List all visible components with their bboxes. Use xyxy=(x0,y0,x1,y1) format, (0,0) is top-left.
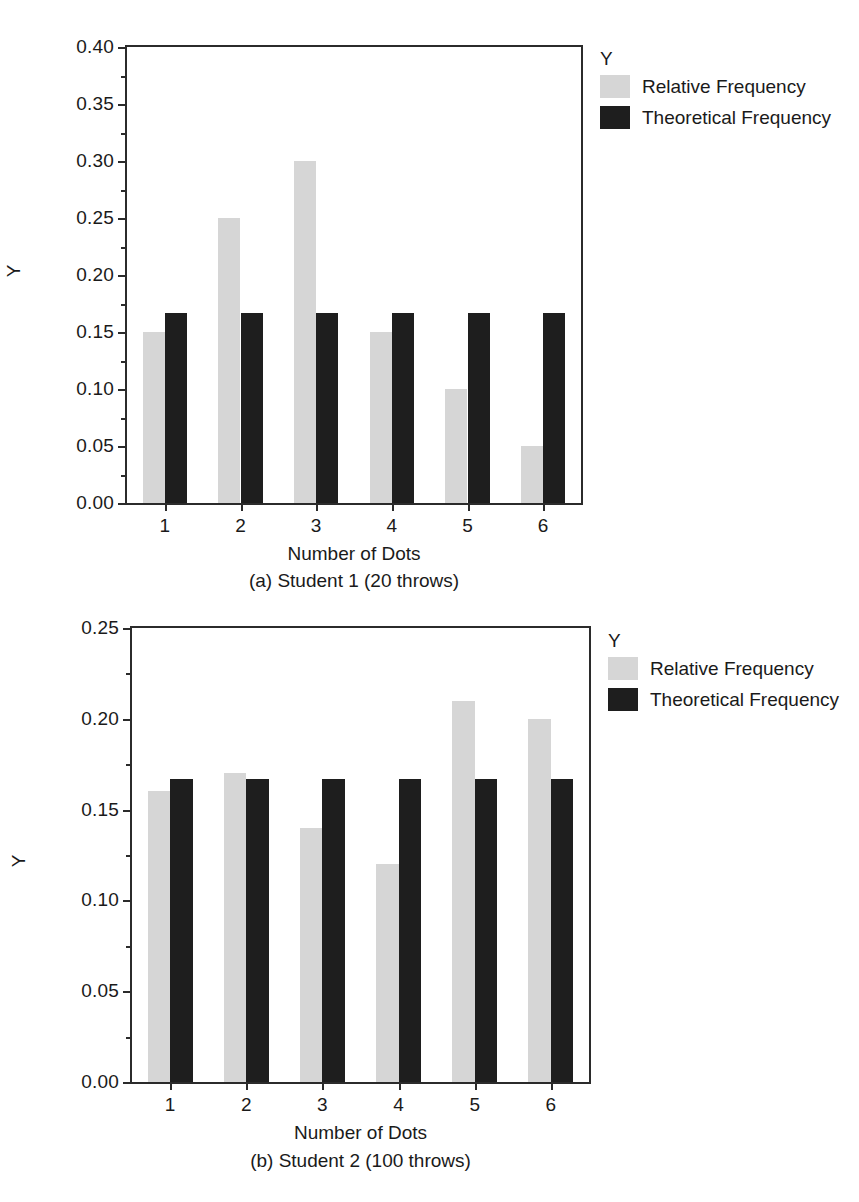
legend-item-theoretical-frequency-b[interactable]: Theoretical Frequency xyxy=(608,688,839,711)
y-tick-label: 0.15 xyxy=(76,321,114,343)
y-tick-minor xyxy=(126,855,132,857)
y-tick-major xyxy=(123,628,132,630)
x-tick-label: 1 xyxy=(165,1094,176,1116)
bar-relative-frequency xyxy=(445,389,467,503)
x-tick xyxy=(475,1082,477,1090)
bar-relative-frequency xyxy=(224,773,246,1082)
legend-swatch-relative-frequency-icon xyxy=(600,75,630,98)
x-tick-label: 2 xyxy=(235,515,246,537)
bar-theoretical-frequency xyxy=(392,313,414,503)
y-tick-major xyxy=(118,389,127,391)
plot-area-b: 0.000.050.100.150.200.25123456 xyxy=(130,626,591,1084)
x-tick xyxy=(241,503,243,511)
x-tick-label: 2 xyxy=(241,1094,252,1116)
y-tick-minor xyxy=(126,946,132,948)
y-tick-minor xyxy=(121,76,127,78)
y-tick-label: 0.20 xyxy=(81,708,119,730)
y-tick-label: 0.25 xyxy=(81,617,119,639)
x-tick xyxy=(551,1082,553,1090)
y-tick-major xyxy=(123,900,132,902)
x-tick xyxy=(392,503,394,511)
legend-title-b: Y xyxy=(608,630,839,652)
y-tick-label: 0.10 xyxy=(76,378,114,400)
bar-theoretical-frequency xyxy=(399,779,421,1082)
y-tick-label: 0.00 xyxy=(81,1071,119,1093)
bar-theoretical-frequency xyxy=(543,313,565,503)
bar-relative-frequency xyxy=(294,161,316,503)
bars-layer-a xyxy=(127,47,581,503)
y-tick-minor xyxy=(121,190,127,192)
x-tick-label: 5 xyxy=(462,515,473,537)
legend-item-relative-frequency-b[interactable]: Relative Frequency xyxy=(608,657,839,680)
y-tick-major xyxy=(118,47,127,49)
y-tick-label: 0.15 xyxy=(81,799,119,821)
y-tick-label: 0.10 xyxy=(81,889,119,911)
bar-relative-frequency xyxy=(300,828,322,1082)
y-tick-major xyxy=(118,218,127,220)
x-tick-label: 3 xyxy=(317,1094,328,1116)
legend-swatch-theoretical-frequency-icon xyxy=(600,106,630,129)
legend-label-relative-frequency: Relative Frequency xyxy=(650,658,814,680)
y-tick-label: 0.25 xyxy=(76,207,114,229)
y-tick-label: 0.20 xyxy=(76,264,114,286)
y-tick-label: 0.00 xyxy=(76,492,114,514)
x-tick xyxy=(468,503,470,511)
y-tick-major xyxy=(118,161,127,163)
y-tick-label: 0.05 xyxy=(76,435,114,457)
legend-b: Y Relative Frequency Theoretical Frequen… xyxy=(608,630,839,719)
y-tick-major xyxy=(123,719,132,721)
figure-student-2: Y 0.000.050.100.150.200.25123456 Number … xyxy=(0,580,859,1202)
bar-theoretical-frequency xyxy=(316,313,338,503)
y-tick-minor xyxy=(121,247,127,249)
bar-relative-frequency xyxy=(452,701,474,1082)
y-tick-major xyxy=(118,332,127,334)
figure-student-1: Y 0.000.050.100.150.200.250.300.350.4012… xyxy=(0,0,859,600)
x-tick-label: 4 xyxy=(393,1094,404,1116)
x-tick xyxy=(170,1082,172,1090)
x-tick-label: 3 xyxy=(311,515,322,537)
bar-theoretical-frequency xyxy=(551,779,573,1082)
x-tick-label: 4 xyxy=(387,515,398,537)
bar-theoretical-frequency xyxy=(241,313,263,503)
y-tick-minor xyxy=(126,673,132,675)
y-tick-label: 0.30 xyxy=(76,150,114,172)
bar-relative-frequency xyxy=(148,791,170,1082)
x-axis-title-a: Number of Dots xyxy=(125,543,583,565)
x-tick-label: 1 xyxy=(160,515,171,537)
legend-swatch-relative-frequency-icon xyxy=(608,657,638,680)
bar-theoretical-frequency xyxy=(165,313,187,503)
x-tick xyxy=(165,503,167,511)
x-tick xyxy=(543,503,545,511)
legend-label-theoretical-frequency: Theoretical Frequency xyxy=(642,107,831,129)
bar-relative-frequency xyxy=(370,332,392,503)
legend-label-relative-frequency: Relative Frequency xyxy=(642,76,806,98)
plot-area-a: 0.000.050.100.150.200.250.300.350.401234… xyxy=(125,45,583,505)
y-tick-major xyxy=(123,1082,132,1084)
bars-layer-b xyxy=(132,628,589,1082)
y-tick-major xyxy=(118,503,127,505)
y-tick-major xyxy=(123,810,132,812)
legend-title-a: Y xyxy=(600,48,831,70)
y-tick-label: 0.05 xyxy=(81,980,119,1002)
x-tick xyxy=(246,1082,248,1090)
bar-theoretical-frequency xyxy=(246,779,268,1082)
y-tick-minor xyxy=(121,133,127,135)
bar-theoretical-frequency xyxy=(468,313,490,503)
y-tick-label: 0.35 xyxy=(76,93,114,115)
y-tick-major xyxy=(118,275,127,277)
y-tick-minor xyxy=(121,304,127,306)
y-tick-major xyxy=(123,991,132,993)
y-tick-minor xyxy=(126,764,132,766)
x-tick-label: 5 xyxy=(469,1094,480,1116)
y-axis-title-a: Y xyxy=(3,265,25,278)
x-tick-label: 6 xyxy=(546,1094,557,1116)
x-tick-label: 6 xyxy=(538,515,549,537)
x-axis-title-b: Number of Dots xyxy=(130,1122,591,1144)
legend-swatch-theoretical-frequency-icon xyxy=(608,688,638,711)
bar-theoretical-frequency xyxy=(475,779,497,1082)
y-tick-minor xyxy=(126,1037,132,1039)
legend-item-theoretical-frequency-a[interactable]: Theoretical Frequency xyxy=(600,106,831,129)
y-tick-minor xyxy=(121,361,127,363)
legend-item-relative-frequency-a[interactable]: Relative Frequency xyxy=(600,75,831,98)
figure-caption-b: (b) Student 2 (100 throws) xyxy=(130,1150,591,1172)
